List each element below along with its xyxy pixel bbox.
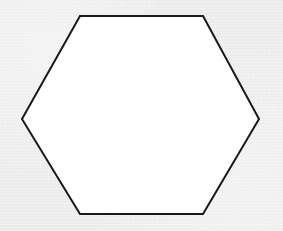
hexagon-shape (22, 16, 259, 214)
image-canvas (0, 0, 283, 231)
hexagon-svg (0, 0, 283, 231)
shape-layer (0, 0, 283, 231)
